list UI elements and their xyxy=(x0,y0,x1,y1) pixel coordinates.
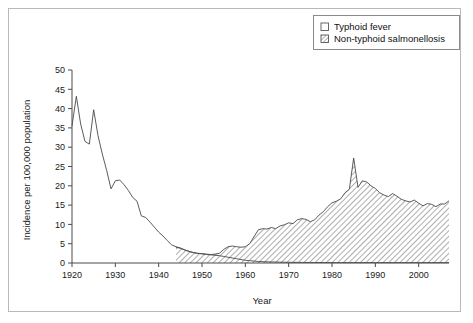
chart-legend[interactable]: Typhoid fever Non-typhoid salmonellosis xyxy=(314,16,460,50)
legend-label-typhoid-fever: Typhoid fever xyxy=(334,21,391,32)
legend-label-non-typhoid-salmonellosis: Non-typhoid salmonellosis xyxy=(334,33,445,44)
figure-container: 05101520253035404550 1920193019401950196… xyxy=(0,0,473,323)
y-tick-label-30: 30 xyxy=(55,142,65,152)
x-tick-label-1930: 1930 xyxy=(105,270,125,280)
y-tick-label-40: 40 xyxy=(55,104,65,114)
y-tick-label-0: 0 xyxy=(60,258,65,268)
y-tick-label-20: 20 xyxy=(55,181,65,191)
y-tick-label-45: 45 xyxy=(55,85,65,95)
x-tick-label-1950: 1950 xyxy=(192,270,212,280)
series-area-non-typhoid-salmonellosis xyxy=(176,158,449,263)
y-tick-label-5: 5 xyxy=(60,239,65,249)
legend-swatch-typhoid xyxy=(321,23,329,31)
x-tick-label-1980: 1980 xyxy=(322,270,342,280)
x-axis-ticks: 192019301940195019601970198019902000 xyxy=(62,263,429,280)
x-tick-label-1940: 1940 xyxy=(149,270,169,280)
x-tick-label-1990: 1990 xyxy=(365,270,385,280)
y-tick-label-35: 35 xyxy=(55,123,65,133)
x-tick-label-1920: 1920 xyxy=(62,270,82,280)
x-axis-title: Year xyxy=(252,295,271,306)
x-tick-label-2000: 2000 xyxy=(409,270,429,280)
y-axis-ticks: 05101520253035404550 xyxy=(55,65,72,268)
y-tick-label-25: 25 xyxy=(55,162,65,172)
x-tick-label-1970: 1970 xyxy=(279,270,299,280)
incidence-chart: 05101520253035404550 1920193019401950196… xyxy=(0,0,473,323)
legend-swatch-salmonellosis xyxy=(321,35,329,43)
y-axis-title: Incidence per 100,000 population xyxy=(21,100,32,241)
y-tick-label-50: 50 xyxy=(55,65,65,75)
y-tick-label-10: 10 xyxy=(55,220,65,230)
y-tick-label-15: 15 xyxy=(55,200,65,210)
x-tick-label-1960: 1960 xyxy=(235,270,255,280)
plot-area xyxy=(72,96,449,263)
